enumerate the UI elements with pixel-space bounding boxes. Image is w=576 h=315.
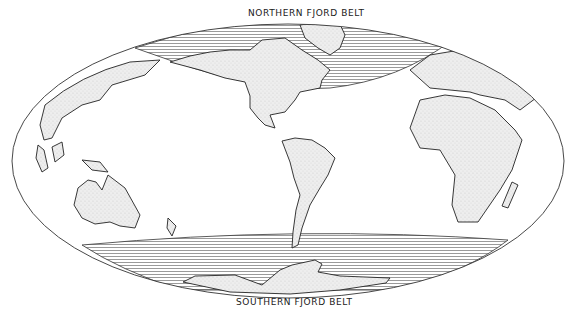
- northern-fjord-belt-label: NORTHERN FJORD BELT: [248, 8, 365, 18]
- world-map: [0, 0, 576, 315]
- southern-fjord-belt-label: SOUTHERN FJORD BELT: [236, 297, 353, 307]
- landmass-south-america: [282, 138, 335, 248]
- landmass-madagascar: [502, 182, 518, 208]
- landmass-asia: [40, 60, 160, 140]
- landmass-borneo: [52, 142, 64, 162]
- landmass-new-zealand: [167, 218, 176, 236]
- landmass-australia: [74, 175, 140, 228]
- landmass-new-guinea: [82, 160, 108, 172]
- landmass-southeast-asia: [36, 145, 48, 172]
